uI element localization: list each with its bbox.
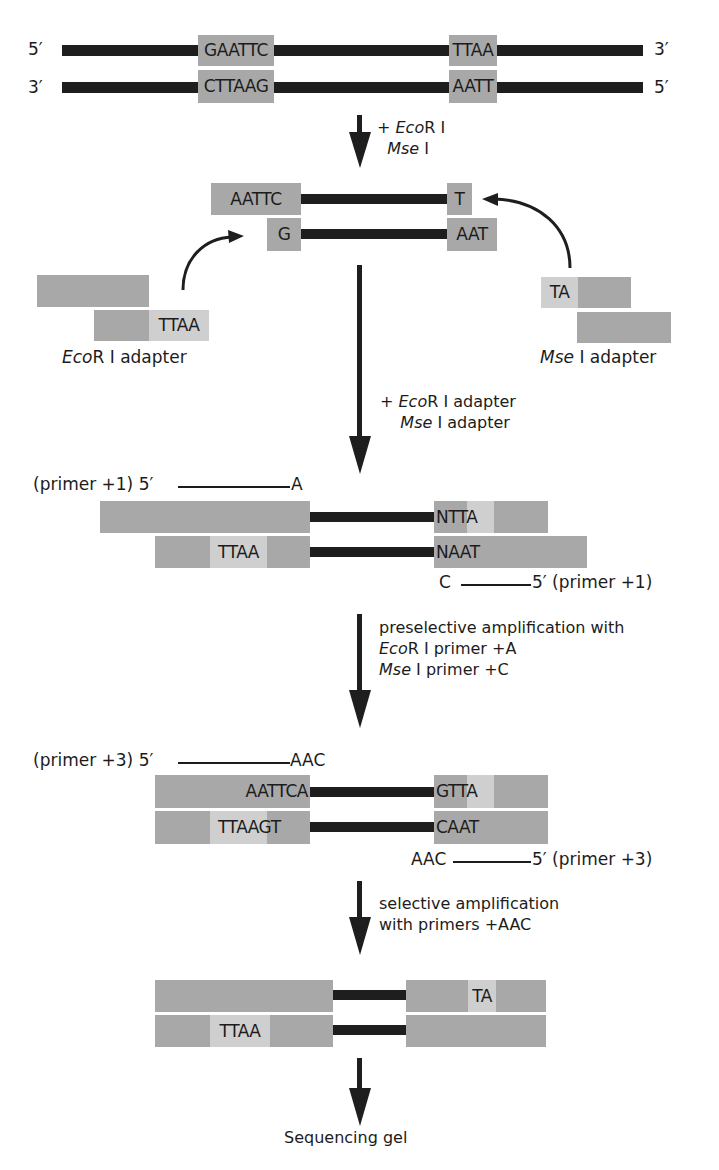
final-top-left (155, 980, 333, 1012)
product-top-left-seq: AATTCA (210, 775, 310, 808)
product-bottom-left-seq: TTAAGT (216, 811, 310, 844)
primer-plus1-label: 5′ (primer +1) (532, 574, 652, 591)
adapter-block (494, 775, 548, 808)
sequence-text: TTAA (159, 317, 200, 334)
ecori-adapter-bottom-strand (94, 310, 149, 341)
dna-strand (310, 547, 434, 557)
ecori-adapter-sticky-end: TTAA (149, 310, 209, 341)
ligated-adapter-bottom-mid (267, 536, 310, 568)
msei-adapter-bottom-strand (577, 312, 671, 343)
msei-adapter-sticky-end: TA (541, 277, 578, 308)
final-bottom-left-outer (155, 1015, 210, 1047)
down-arrow-icon (349, 1088, 371, 1126)
sequencing-gel-label: Sequencing gel (284, 1130, 407, 1146)
down-arrow-icon (349, 436, 371, 474)
ecori-adapter-label: EcoR I adapter (62, 349, 187, 366)
sequence-text: TTAAGT (218, 819, 281, 836)
sequence-text: NTTA (436, 509, 478, 526)
arrow-shaft (357, 614, 362, 694)
primer-line (178, 762, 290, 764)
sequence-text: AATTCA (246, 783, 308, 800)
msei-adapter-label: Mse I adapter (540, 349, 656, 366)
final-bottom-sticky: TTAA (210, 1015, 270, 1047)
ligated-adapter-bottom-sticky: TTAA (210, 536, 267, 568)
final-bottom-left-inner (270, 1015, 333, 1047)
primer-plus1-label: (primer +1) 5′ (33, 476, 153, 493)
ecori-adapter-top-strand (37, 275, 149, 307)
ligated-adapter-bottom-right: NAAT (434, 536, 587, 568)
sequence-text: CAAT (436, 819, 479, 836)
dna-strand (333, 1025, 406, 1035)
sequence-text: NAAT (436, 544, 480, 561)
ligated-adapter-top-left (100, 501, 310, 533)
primer-line (453, 861, 531, 863)
primer-start-bases: AAC (411, 851, 446, 868)
dna-strand (310, 822, 434, 832)
step4-label: selective amplification with primers +AA… (379, 893, 559, 935)
arrow-shaft (357, 265, 362, 440)
dna-strand (310, 787, 434, 797)
step3-label: preselective amplification with EcoR I p… (379, 617, 624, 680)
ligated-adapter-bottom-left (155, 536, 210, 568)
sequence-text: TTAA (218, 544, 259, 561)
final-top-sticky: TA (468, 980, 496, 1012)
dna-strand (333, 990, 406, 1000)
primer-line (178, 486, 290, 488)
dna-strand (310, 512, 434, 522)
primer-end-bases: AAC (290, 752, 325, 769)
sequence-text: TA (472, 988, 492, 1005)
sequence-text: TTAA (220, 1023, 261, 1040)
primer-plus3-label: (primer +3) 5′ (33, 752, 153, 769)
primer-line (461, 584, 531, 586)
sequence-text: TA (550, 284, 570, 301)
primer-plus3-label: 5′ (primer +3) (532, 851, 652, 868)
aflp-diagram: 5′ GAATTC TTAA 3′ 3′ CTTAAG AATT 5′ + Ec… (0, 0, 719, 1170)
sequence-text: GTTA (436, 783, 477, 800)
final-bottom-right (406, 1015, 546, 1047)
down-arrow-icon (349, 690, 371, 728)
product-bottom-right-seq: CAAT (434, 811, 548, 844)
product-top-left-outer (155, 775, 210, 808)
down-arrow-icon (349, 917, 371, 955)
primer-end-base: A (291, 476, 303, 493)
arrow-shaft (357, 881, 362, 921)
product-bottom-left-outer (155, 811, 210, 844)
msei-adapter-top-strand (578, 277, 631, 308)
step2-label: + EcoR I adapter Mse I adapter (380, 391, 516, 433)
primer-start-base: C (439, 574, 451, 591)
